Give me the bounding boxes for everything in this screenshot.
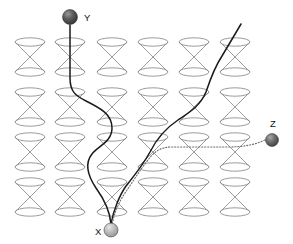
light-cone bbox=[55, 133, 85, 171]
sphere-icon bbox=[104, 223, 118, 237]
cone-bottom-rim bbox=[97, 163, 127, 171]
event-node-y: Y bbox=[63, 10, 92, 25]
diagram-canvas: YXZ bbox=[0, 0, 293, 244]
cone-bottom-rim bbox=[138, 208, 168, 216]
light-cone bbox=[15, 38, 45, 76]
cone-top-rim bbox=[138, 133, 168, 141]
node-label-z: Z bbox=[270, 118, 276, 129]
cone-bottom-rim bbox=[138, 118, 168, 126]
cone-bottom-rim bbox=[55, 163, 85, 171]
cone-top-rim bbox=[179, 133, 209, 141]
cone-top-rim bbox=[220, 88, 250, 96]
cone-top-rim bbox=[97, 38, 127, 46]
light-cone bbox=[220, 178, 250, 216]
cone-top-rim bbox=[97, 133, 127, 141]
light-cone bbox=[55, 88, 85, 126]
cone-bottom-rim bbox=[15, 68, 45, 76]
light-cone bbox=[15, 133, 45, 171]
cone-top-rim bbox=[220, 38, 250, 46]
light-cone bbox=[179, 38, 209, 76]
light-cone bbox=[220, 133, 250, 171]
cone-top-rim bbox=[55, 88, 85, 96]
cone-bottom-rim bbox=[55, 208, 85, 216]
cone-top-rim bbox=[55, 133, 85, 141]
cone-top-rim bbox=[220, 133, 250, 141]
light-cone bbox=[220, 88, 250, 126]
cone-bottom-rim bbox=[179, 68, 209, 76]
sphere-icon bbox=[266, 134, 279, 147]
cone-top-rim bbox=[15, 133, 45, 141]
light-cone bbox=[97, 133, 127, 171]
cone-bottom-rim bbox=[15, 163, 45, 171]
cone-bottom-rim bbox=[220, 208, 250, 216]
cone-bottom-rim bbox=[220, 118, 250, 126]
cone-top-rim bbox=[220, 178, 250, 186]
light-cone bbox=[138, 38, 168, 76]
light-cone bbox=[179, 133, 209, 171]
light-cone bbox=[55, 178, 85, 216]
light-cone bbox=[97, 88, 127, 126]
light-cone bbox=[220, 38, 250, 76]
cone-bottom-rim bbox=[179, 118, 209, 126]
cone-bottom-rim bbox=[15, 118, 45, 126]
node-label-x: X bbox=[95, 226, 102, 237]
cone-top-rim bbox=[97, 178, 127, 186]
cone-top-rim bbox=[138, 178, 168, 186]
cone-bottom-rim bbox=[220, 68, 250, 76]
cone-top-rim bbox=[55, 178, 85, 186]
cone-bottom-rim bbox=[97, 208, 127, 216]
light-cone-lattice bbox=[15, 38, 250, 216]
light-cone bbox=[179, 178, 209, 216]
light-cone bbox=[15, 178, 45, 216]
cone-bottom-rim bbox=[15, 208, 45, 216]
light-cone bbox=[138, 88, 168, 126]
light-cone bbox=[15, 88, 45, 126]
cone-bottom-rim bbox=[179, 208, 209, 216]
cone-bottom-rim bbox=[97, 68, 127, 76]
light-cone bbox=[97, 38, 127, 76]
light-cone bbox=[138, 178, 168, 216]
cone-top-rim bbox=[138, 38, 168, 46]
cone-top-rim bbox=[97, 88, 127, 96]
event-node-z: Z bbox=[266, 118, 279, 147]
cone-top-rim bbox=[15, 38, 45, 46]
cone-bottom-rim bbox=[138, 68, 168, 76]
cone-bottom-rim bbox=[179, 163, 209, 171]
sphere-icon bbox=[63, 10, 78, 25]
worldline-diagram: YXZ bbox=[0, 0, 293, 244]
cone-top-rim bbox=[138, 88, 168, 96]
cone-top-rim bbox=[179, 38, 209, 46]
worldline-z-to-x bbox=[112, 140, 265, 226]
cone-top-rim bbox=[179, 178, 209, 186]
worldline-y-to-x bbox=[70, 25, 112, 224]
cone-bottom-rim bbox=[220, 163, 250, 171]
node-label-y: Y bbox=[84, 12, 91, 23]
light-cone bbox=[138, 133, 168, 171]
event-node-x: X bbox=[95, 223, 118, 237]
cone-top-rim bbox=[15, 88, 45, 96]
event-nodes-group: YXZ bbox=[63, 10, 279, 238]
cone-top-rim bbox=[15, 178, 45, 186]
cone-bottom-rim bbox=[55, 118, 85, 126]
